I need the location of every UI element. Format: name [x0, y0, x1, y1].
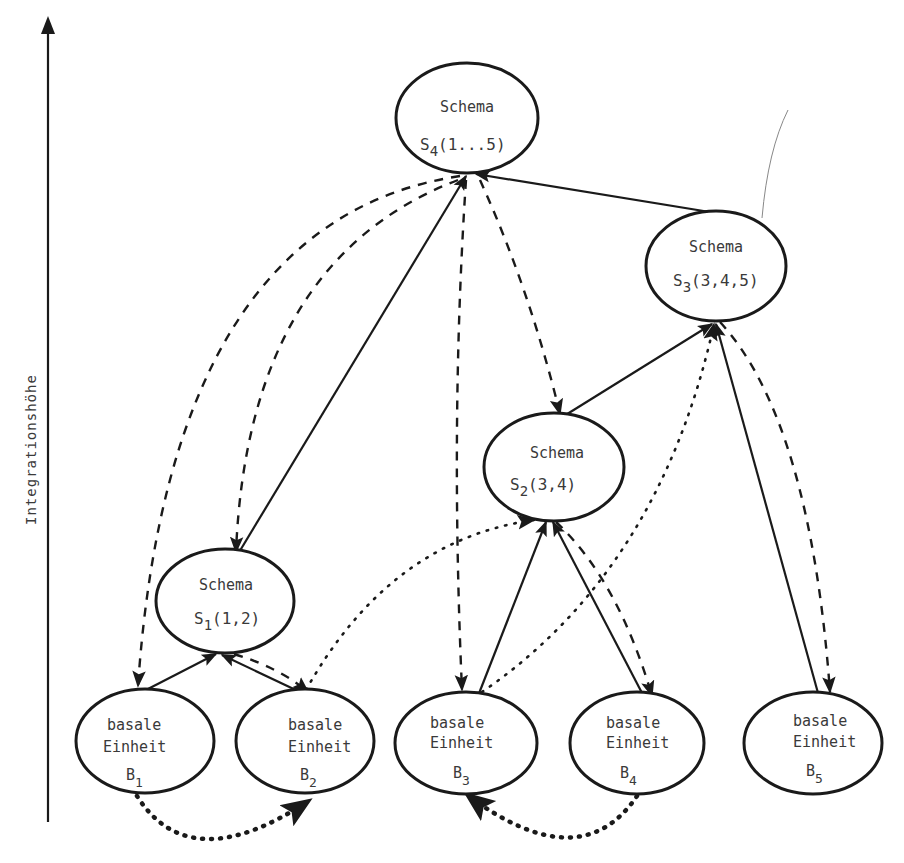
stray-line — [762, 110, 788, 218]
node-s3-shape — [646, 211, 786, 321]
node-s1: Schema S1(1,2) — [156, 549, 294, 653]
edge-b2-to-s1 — [222, 655, 300, 692]
node-b4: basale Einheit B4 — [570, 692, 704, 794]
edge-b4-to-b3 — [466, 794, 637, 838]
edge-s4-to-s1 — [236, 180, 458, 552]
node-b5: basale Einheit B5 — [744, 692, 882, 794]
edge-b1-to-s1 — [146, 654, 216, 690]
edge-b2-to-s2 — [306, 520, 534, 690]
edge-s1-to-b2 — [234, 654, 308, 692]
integration-axis: Integrationshöhe — [23, 16, 55, 822]
edge-s3-to-s4 — [476, 174, 722, 214]
edge-s3-to-b5 — [720, 322, 830, 692]
axis-arrowhead-icon — [41, 16, 55, 34]
node-b1: basale Einheit B1 — [76, 689, 214, 793]
node-b1-line1: basale — [107, 716, 161, 734]
node-b5-line1: basale — [793, 712, 847, 730]
node-b3-line2: Einheit — [430, 734, 493, 752]
node-b3-line1: basale — [430, 714, 484, 732]
node-s1-title: Schema — [199, 576, 253, 594]
node-b2: basale Einheit B2 — [236, 689, 374, 793]
node-s2: Schema S2(3,4) — [484, 413, 624, 521]
node-s1-shape — [156, 549, 294, 653]
schema-diagram: Integrationshöhe Schema S4(1...5) — [0, 0, 904, 863]
node-b4-line2: Einheit — [606, 734, 669, 752]
edge-s4-to-s2 — [480, 180, 560, 414]
node-b4-line1: basale — [606, 714, 660, 732]
node-s4-shape — [396, 63, 538, 173]
node-s4: Schema S4(1...5) — [396, 63, 538, 173]
node-s3: Schema S3(3,4,5) — [646, 211, 786, 321]
node-s2-shape — [484, 413, 624, 521]
axis-label: Integrationshöhe — [23, 374, 39, 525]
edge-b1-to-b2 — [137, 796, 310, 839]
edge-b4-to-s2 — [553, 522, 642, 693]
edge-s2-to-b4 — [556, 522, 652, 696]
node-s3-title: Schema — [689, 238, 743, 256]
edge-b5-to-s3 — [716, 324, 818, 693]
edge-s2-to-s3 — [564, 324, 712, 416]
node-s4-title: Schema — [440, 98, 494, 116]
edge-s1-to-s4 — [238, 176, 466, 554]
node-b5-line2: Einheit — [793, 733, 856, 751]
node-b2-line2: Einheit — [288, 738, 351, 756]
edge-s4-to-b3 — [457, 180, 466, 690]
node-s2-title: Schema — [530, 444, 584, 462]
node-b2-line1: basale — [288, 716, 342, 734]
node-b3: basale Einheit B3 — [395, 692, 537, 794]
node-b1-line2: Einheit — [103, 738, 166, 756]
